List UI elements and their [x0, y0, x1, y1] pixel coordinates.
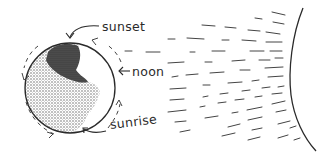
label-noon: noon: [132, 64, 164, 79]
earth-globe: [25, 43, 115, 133]
label-sunset: sunset: [102, 19, 145, 34]
earth-sun-diagram: [0, 0, 330, 161]
sun-edge: [290, 8, 316, 151]
